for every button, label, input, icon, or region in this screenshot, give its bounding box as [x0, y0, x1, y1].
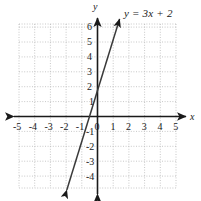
y-tick-label: 1: [89, 97, 94, 107]
x-tick-label: -4: [29, 122, 37, 132]
x-tick-label: 2: [126, 122, 131, 132]
y-tick-label: 2: [87, 82, 92, 92]
y-tick-label: 4: [87, 52, 92, 62]
y-tick-label: -2: [86, 142, 94, 152]
x-tick-label: -5: [13, 122, 21, 132]
x-tick-label: 3: [142, 122, 147, 132]
y-tick-label: 6: [87, 22, 92, 32]
y-tick-label: 3: [87, 67, 92, 77]
graph-figure: y x y = 3x + 2 -5 -4 -3 -2 -1 0 1 2 3 4 …: [0, 0, 201, 201]
y-tick-label: -1: [86, 127, 94, 137]
x-tick-label: 1: [110, 122, 115, 132]
x-tick-label: 5: [173, 122, 178, 132]
x-tick-label: -3: [44, 122, 52, 132]
y-tick-label: 5: [87, 37, 92, 47]
x-axis-label: x: [190, 112, 194, 122]
y-tick-label: -4: [86, 172, 94, 182]
x-tick-label: -1: [76, 122, 84, 132]
x-tick-label: 4: [158, 122, 163, 132]
x-tick-label: -2: [60, 122, 68, 132]
y-axis-label: y: [93, 2, 97, 12]
x-tick-label: 0: [95, 122, 100, 132]
equation-annotation: y = 3x + 2: [124, 7, 173, 19]
y-tick-label: -3: [86, 157, 94, 167]
coordinate-plane: [0, 0, 201, 201]
